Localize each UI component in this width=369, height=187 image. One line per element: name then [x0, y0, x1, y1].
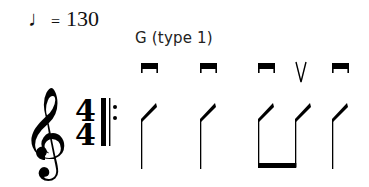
- slash-note-2: [200, 103, 216, 169]
- up-stroke-icon: [296, 62, 306, 82]
- down-stroke-icon: [332, 63, 349, 73]
- start-repeat-barline: [101, 98, 117, 146]
- treble-clef-icon: 𝄞: [22, 86, 68, 181]
- down-stroke-icon: [258, 63, 275, 73]
- slash-note-3: [258, 103, 274, 167]
- down-stroke-icon: [141, 63, 158, 73]
- time-signature: 4 4: [75, 93, 96, 152]
- slash-note-5: [332, 103, 348, 169]
- slash-note-4: [295, 103, 311, 167]
- down-stroke-icon: [200, 63, 217, 73]
- time-signature-bottom: 4: [75, 117, 96, 152]
- eighth-beam: [258, 163, 296, 168]
- slash-note-1: [141, 103, 157, 169]
- svg-text:𝄞: 𝄞: [22, 86, 68, 181]
- notation-canvas: 𝄞 4 4: [0, 0, 369, 187]
